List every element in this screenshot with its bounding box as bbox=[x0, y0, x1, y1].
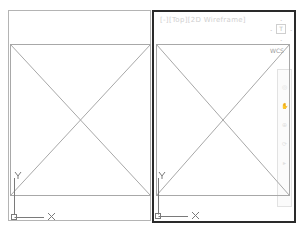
drawing-geometry bbox=[0, 0, 305, 234]
right-rectangle-with-diagonals bbox=[157, 45, 290, 196]
left-rectangle-with-diagonals bbox=[11, 45, 151, 196]
